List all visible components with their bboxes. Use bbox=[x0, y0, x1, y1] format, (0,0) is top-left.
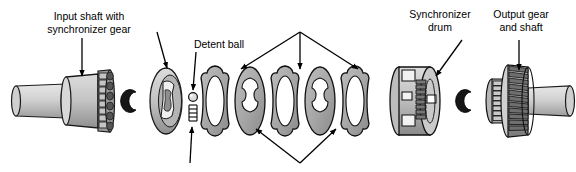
exploded-assembly-diagram: Input shaft with synchronizer gear Deten… bbox=[0, 0, 576, 172]
synchronizer-gear-splines bbox=[98, 70, 115, 132]
leader-synchronizer-drum bbox=[436, 40, 462, 76]
part-snap-ring-right bbox=[456, 90, 471, 113]
part-synchronizer-drum bbox=[390, 67, 440, 135]
label-synchronizer-drum-line1: Synchronizer bbox=[409, 8, 471, 20]
label-output-gear-line1: Output gear bbox=[493, 8, 549, 20]
leader-detent-ball bbox=[193, 52, 196, 90]
label-detent-ball: Detent ball bbox=[194, 38, 244, 50]
leader-plates-upper-right bbox=[300, 32, 358, 69]
part-snap-ring-left bbox=[121, 90, 136, 113]
part-clutch-plate-3 bbox=[271, 66, 299, 136]
leader-detent-plate bbox=[157, 32, 167, 68]
label-output-gear-line2: and shaft bbox=[499, 21, 542, 33]
leader-plates-upper-left bbox=[241, 32, 300, 69]
label-input-shaft-line2: synchronizer gear bbox=[47, 23, 131, 35]
part-detent-spring bbox=[189, 105, 197, 121]
label-detent-ball-line1: Detent ball bbox=[194, 38, 244, 50]
part-clutch-plate-4 bbox=[305, 67, 335, 135]
leader-detent-spring bbox=[190, 127, 192, 163]
part-detent-ball bbox=[189, 93, 198, 102]
label-input-shaft: Input shaft with synchronizer gear bbox=[47, 10, 131, 35]
label-output-gear: Output gear and shaft bbox=[493, 8, 549, 33]
part-input-shaft-assembly bbox=[12, 70, 115, 132]
part-clutch-plate-2 bbox=[235, 67, 265, 135]
part-clutch-plate-1 bbox=[201, 66, 229, 136]
part-clutch-plate-5 bbox=[341, 66, 369, 136]
part-output-gear-shaft bbox=[486, 65, 575, 137]
label-synchronizer-drum: Synchronizer drum bbox=[409, 8, 471, 33]
part-detent-plate bbox=[150, 68, 182, 134]
leader-plates-lower-left bbox=[256, 129, 300, 163]
label-synchronizer-drum-line2: drum bbox=[428, 21, 452, 33]
label-input-shaft-line1: Input shaft with bbox=[54, 10, 125, 22]
